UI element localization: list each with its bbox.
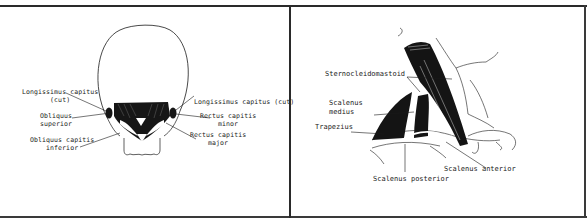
label-sternocleidomastoid: Sternocleidomastoid (325, 70, 405, 79)
label-rectus-capitis-minor: Rectus capitis minor (200, 112, 256, 128)
figure-frame: Longissimus capitus (cut) Obliquus super… (0, 0, 587, 220)
panel-suboccipital: Longissimus capitus (cut) Obliquus super… (0, 7, 289, 216)
label-trapezius: Trapezius (315, 123, 353, 132)
label-rectus-capitis-major: Rectus capitis major (190, 131, 246, 147)
label-scalenus-posterior: Scalenus posterior (373, 175, 449, 184)
label-longissimus-capitus-left: Longissimus capitus (cut) (22, 88, 98, 104)
right-border (584, 5, 586, 218)
label-scalenus-anterior: Scalenus anterior (444, 165, 516, 174)
label-scalenus-medius: Scalenus medius (329, 99, 363, 117)
panel-lateral-neck: Sternocleidomastoid Scalenus medius Trap… (291, 7, 584, 216)
label-obliquus-capitis-inferior: Obliquus capitis inferior (30, 136, 94, 152)
bottom-border (0, 216, 587, 218)
label-obliquus-superior: Obliquus superior (30, 112, 72, 128)
label-longissimus-capitus-right: Longissimus capitus (cut) (194, 98, 294, 106)
